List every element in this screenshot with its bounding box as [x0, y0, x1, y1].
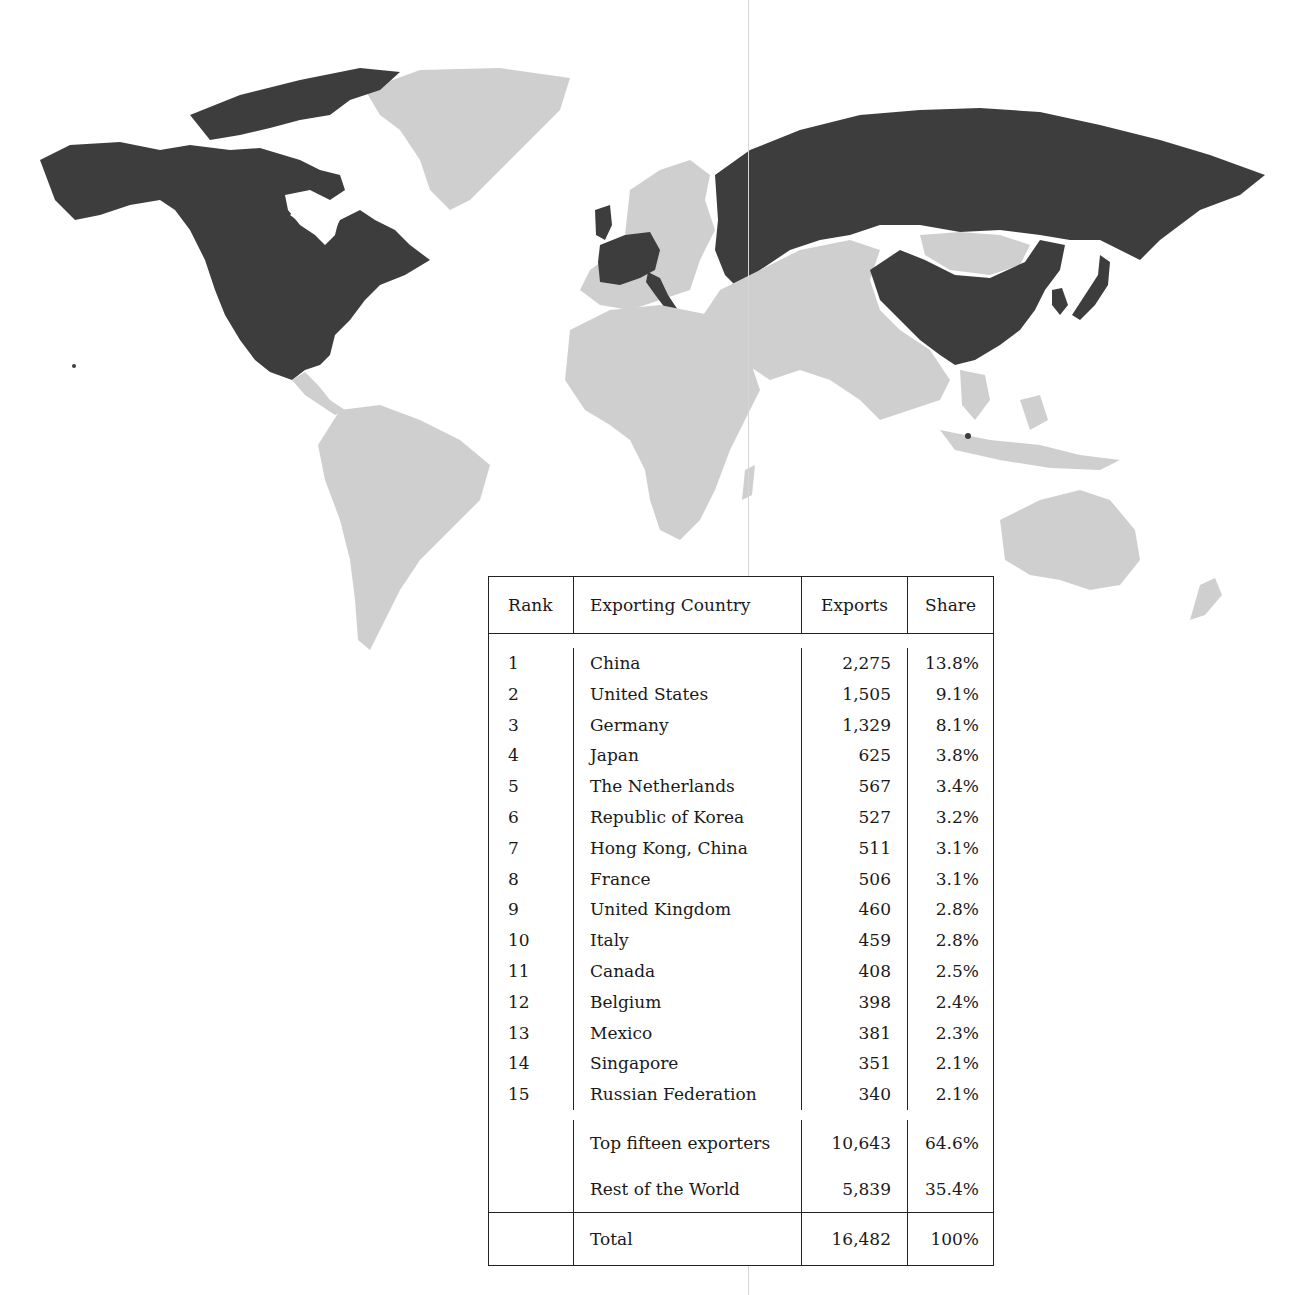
country-cell: Republic of Korea	[573, 802, 801, 833]
share-cell: 2.8%	[907, 925, 993, 956]
exports-table: Rank Exporting Country Exports Share 1Ch…	[488, 576, 994, 1266]
rank-cell: 3	[489, 710, 573, 741]
table-row: 5The Netherlands5673.4%	[489, 771, 993, 802]
country-cell: Belgium	[573, 987, 801, 1018]
share-cell: 2.8%	[907, 894, 993, 925]
country-cell: Mexico	[573, 1018, 801, 1049]
table-header-row: Rank Exporting Country Exports Share	[489, 577, 993, 634]
table-total: Total 16,482 100%	[489, 1212, 993, 1265]
rank-cell: 4	[489, 740, 573, 771]
exports-cell: 1,329	[801, 710, 907, 741]
share-cell: 3.8%	[907, 740, 993, 771]
rank-cell: 5	[489, 771, 573, 802]
summary-exports: 5,839	[801, 1166, 907, 1212]
share-cell: 2.5%	[907, 956, 993, 987]
rank-cell: 9	[489, 894, 573, 925]
exports-cell: 625	[801, 740, 907, 771]
country-cell: The Netherlands	[573, 771, 801, 802]
exports-cell: 398	[801, 987, 907, 1018]
table-summary: Top fifteen exporters 10,643 64.6% Rest …	[489, 1120, 993, 1212]
table-row: 11Canada4082.5%	[489, 956, 993, 987]
rank-cell: 8	[489, 864, 573, 895]
rank-cell: 6	[489, 802, 573, 833]
region-korea	[1052, 288, 1068, 315]
country-cell: Hong Kong, China	[573, 833, 801, 864]
summary-row-top-fifteen: Top fifteen exporters 10,643 64.6%	[489, 1120, 993, 1166]
exports-cell: 2,275	[801, 648, 907, 679]
summary-row-rest-of-world: Rest of the World 5,839 35.4%	[489, 1166, 993, 1212]
rank-cell: 7	[489, 833, 573, 864]
region-central-america	[292, 372, 345, 415]
share-cell: 2.1%	[907, 1048, 993, 1079]
rank-cell: 13	[489, 1018, 573, 1049]
total-share: 100%	[907, 1213, 993, 1265]
header-exports: Exports	[801, 577, 907, 633]
exports-cell: 351	[801, 1048, 907, 1079]
rank-cell: 11	[489, 956, 573, 987]
total-label: Total	[573, 1213, 801, 1265]
exports-cell: 506	[801, 864, 907, 895]
region-greenland	[365, 68, 570, 210]
country-cell: Russian Federation	[573, 1079, 801, 1110]
table-row: 6Republic of Korea5273.2%	[489, 802, 993, 833]
table-row: 1China2,27513.8%	[489, 648, 993, 679]
share-cell: 13.8%	[907, 648, 993, 679]
country-cell: Canada	[573, 956, 801, 987]
share-cell: 2.1%	[907, 1079, 993, 1110]
table-row: 12Belgium3982.4%	[489, 987, 993, 1018]
share-cell: 3.4%	[907, 771, 993, 802]
exports-cell: 1,505	[801, 679, 907, 710]
region-north-america	[40, 142, 430, 380]
table-row: 4Japan6253.8%	[489, 740, 993, 771]
header-rank: Rank	[489, 577, 573, 633]
share-cell: 2.4%	[907, 987, 993, 1018]
exports-cell: 381	[801, 1018, 907, 1049]
exports-cell: 567	[801, 771, 907, 802]
country-cell: Germany	[573, 710, 801, 741]
summary-exports: 10,643	[801, 1120, 907, 1166]
exports-cell: 527	[801, 802, 907, 833]
table-row: 3Germany1,3298.1%	[489, 710, 993, 741]
share-cell: 3.1%	[907, 833, 993, 864]
country-cell: Italy	[573, 925, 801, 956]
table-row: 7Hong Kong, China5113.1%	[489, 833, 993, 864]
rank-cell: 12	[489, 987, 573, 1018]
exports-cell: 460	[801, 894, 907, 925]
region-new-zealand	[1190, 578, 1222, 620]
rank-cell: 1	[489, 648, 573, 679]
region-singapore	[965, 433, 971, 439]
country-cell: Singapore	[573, 1048, 801, 1079]
region-south-america	[318, 405, 490, 650]
country-cell: United States	[573, 679, 801, 710]
header-country: Exporting Country	[573, 577, 801, 633]
exports-cell: 340	[801, 1079, 907, 1110]
region-japan	[1072, 255, 1110, 320]
share-cell: 8.1%	[907, 710, 993, 741]
share-cell: 9.1%	[907, 679, 993, 710]
region-western-europe	[595, 205, 612, 240]
table-row: 8France5063.1%	[489, 864, 993, 895]
country-cell: France	[573, 864, 801, 895]
region-hawaii	[72, 364, 76, 368]
table-row: 10Italy4592.8%	[489, 925, 993, 956]
region-canada-islands	[190, 68, 400, 140]
exports-cell: 511	[801, 833, 907, 864]
exports-cell: 459	[801, 925, 907, 956]
header-share: Share	[907, 577, 993, 633]
total-row: Total 16,482 100%	[489, 1213, 993, 1265]
country-cell: Japan	[573, 740, 801, 771]
rank-cell: 10	[489, 925, 573, 956]
table-row: 15Russian Federation3402.1%	[489, 1079, 993, 1110]
region-southeast-asia	[940, 370, 1120, 470]
summary-share: 35.4%	[907, 1166, 993, 1212]
table-body: 1China2,27513.8%2United States1,5059.1%3…	[489, 634, 993, 1120]
rank-cell: 2	[489, 679, 573, 710]
summary-label: Top fifteen exporters	[573, 1120, 801, 1166]
summary-share: 64.6%	[907, 1120, 993, 1166]
exports-cell: 408	[801, 956, 907, 987]
table-row: 2United States1,5059.1%	[489, 679, 993, 710]
rank-cell: 14	[489, 1048, 573, 1079]
country-cell: China	[573, 648, 801, 679]
share-cell: 3.2%	[907, 802, 993, 833]
country-cell: United Kingdom	[573, 894, 801, 925]
